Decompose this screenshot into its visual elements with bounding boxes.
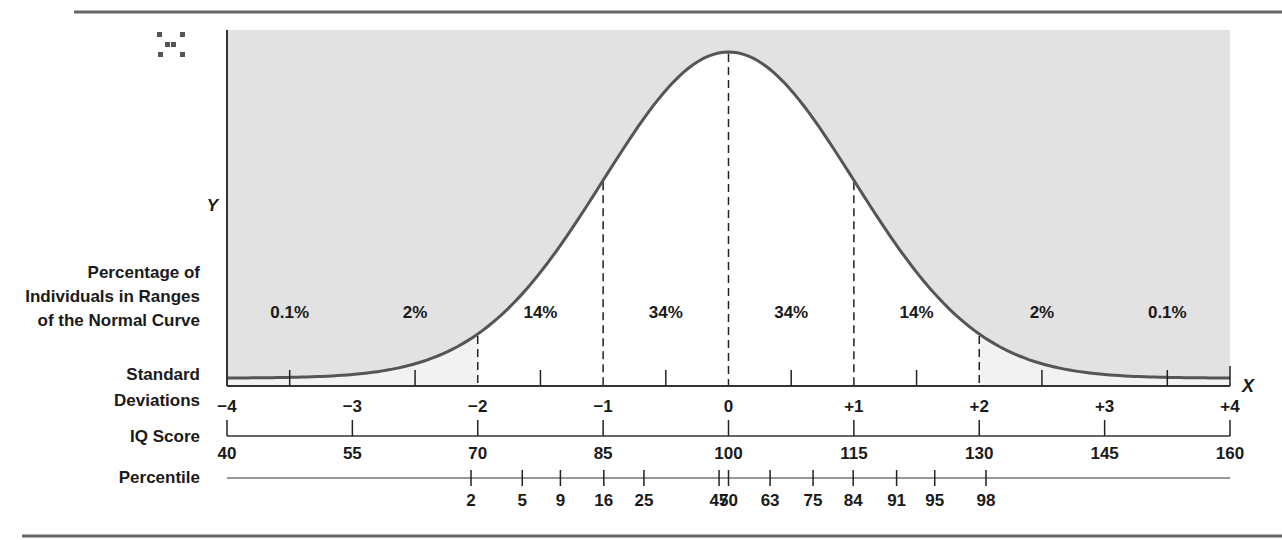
sd-tick-label: −2 [468,397,487,416]
percentile-tick-label: 91 [887,491,906,510]
iq-tick-label: 40 [218,444,237,463]
percentile-tick-label: 5 [518,491,527,510]
iq-tick-label: 145 [1090,444,1118,463]
sd-tick-label: +3 [1095,397,1114,416]
row-label-sd-2: Deviations [114,391,200,410]
iq-tick-label: 160 [1216,444,1244,463]
iq-tick-label: 85 [594,444,613,463]
row-label-iq: IQ Score [130,427,200,446]
sd-tick-label: +2 [970,397,989,416]
region-percentage-label: 2% [1030,303,1055,322]
sd-tick-label: −4 [217,397,237,416]
marker-icon [157,32,185,57]
percentile-tick-label: 50 [719,491,738,510]
sd-tick-label: +1 [844,397,863,416]
region-percentage-label: 2% [403,303,428,322]
y-axis-label: Y [207,196,220,215]
region-percentage-label: 14% [523,303,557,322]
region-percentage-label: 0.1% [270,303,309,322]
row-label-percentage-1: Percentage of [88,263,201,282]
iq-tick-label: 55 [343,444,362,463]
normal-curve-chart: 0.1%2%14%34%34%14%2%0.1%−4−3−2−10+1+2+3+… [0,0,1282,540]
region-percentage-label: 34% [774,303,808,322]
row-label-percentage-2: Individuals in Ranges [25,287,200,306]
row-label-percentage-3: of the Normal Curve [38,311,200,330]
percentile-tick-label: 9 [556,491,565,510]
percentile-tick-label: 84 [844,491,863,510]
sd-tick-label: 0 [724,397,733,416]
percentile-tick-label: 95 [925,491,944,510]
row-label-percentile: Percentile [119,468,200,487]
iq-tick-label: 130 [965,444,993,463]
percentile-tick-label: 16 [594,491,613,510]
sd-tick-label: +4 [1220,397,1240,416]
iq-tick-label: 70 [468,444,487,463]
iq-tick-label: 115 [840,444,867,463]
region-percentage-label: 0.1% [1148,303,1187,322]
row-label-sd-1: Standard [126,365,200,384]
percentile-tick-label: 25 [634,491,653,510]
percentile-tick-label: 63 [761,491,780,510]
region-percentage-label: 14% [900,303,934,322]
percentile-tick-label: 2 [466,491,475,510]
percentile-tick-label: 98 [977,491,996,510]
sd-tick-label: −3 [343,397,362,416]
region-percentage-label: 34% [649,303,683,322]
sd-tick-label: −1 [593,397,612,416]
x-axis-label: X [1241,376,1255,396]
iq-tick-label: 100 [714,444,742,463]
percentile-tick-label: 75 [804,491,823,510]
